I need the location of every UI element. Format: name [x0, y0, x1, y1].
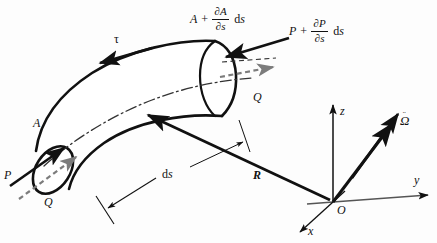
- omega-symbol: Ω: [400, 114, 409, 127]
- force-increment-differential: ds: [333, 24, 344, 39]
- q-left-label: Q: [44, 196, 53, 208]
- p-right-vector: [226, 38, 289, 57]
- figure-canvas: A + ∂A ∂s ds P + ∂P ∂s ds τ A P Q Q ds R: [0, 0, 437, 243]
- differential-var: s: [240, 12, 245, 26]
- tau-label: τ: [114, 33, 119, 45]
- axis-x-line: [300, 202, 333, 232]
- axis-y-label: y: [414, 174, 419, 186]
- differential-var: s: [339, 24, 344, 38]
- force-increment-fraction: ∂P ∂s: [311, 18, 328, 44]
- r-label: R: [253, 169, 261, 181]
- force-increment-numerator: ∂P: [313, 18, 327, 30]
- curved-rod-element: [25, 41, 252, 201]
- omega-vector-line-2: [352, 114, 398, 178]
- q-right-label: Q: [253, 91, 262, 103]
- area-increment-numerator: ∂A: [214, 6, 228, 18]
- origin-label: O: [337, 204, 346, 216]
- area-increment-lead: A: [190, 12, 197, 27]
- area-increment-denominator: ∂s: [215, 21, 227, 33]
- area-increment-expression: A + ∂A ∂s ds: [190, 6, 245, 32]
- area-increment-operator: +: [201, 12, 208, 27]
- ds-dimension: [96, 178, 156, 224]
- force-increment-operator: +: [300, 24, 307, 39]
- r-vector: [148, 115, 330, 200]
- ds-s: s: [168, 167, 173, 181]
- diagram-vector-graphics: [0, 0, 437, 243]
- axis-x-label: x: [308, 225, 313, 237]
- p-left-label: P: [4, 169, 11, 181]
- axis-z-label: z: [340, 105, 345, 117]
- area-label: A: [33, 117, 40, 129]
- area-increment-differential: ds: [234, 12, 245, 27]
- axis-y-line: [333, 195, 428, 202]
- force-increment-expression: P + ∂P ∂s ds: [289, 18, 344, 44]
- omega-ddot-label: ¨ Ω: [400, 110, 409, 127]
- force-increment-denominator: ∂s: [314, 33, 326, 45]
- ds-label: ds: [162, 168, 173, 180]
- area-increment-fraction: ∂A ∂s: [212, 6, 229, 32]
- force-increment-lead: P: [289, 24, 296, 39]
